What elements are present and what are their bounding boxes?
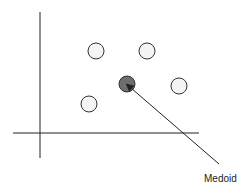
data-point bbox=[171, 78, 187, 94]
data-point bbox=[139, 43, 155, 59]
data-point bbox=[88, 43, 104, 59]
data-point bbox=[81, 96, 97, 112]
medoid-arrow bbox=[131, 88, 219, 164]
medoid-label: Medoid bbox=[204, 173, 237, 184]
medoid-diagram bbox=[0, 0, 251, 194]
